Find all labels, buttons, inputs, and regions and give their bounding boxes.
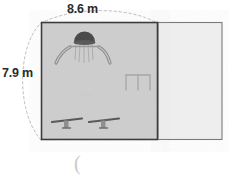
playground-plan-figure <box>0 0 234 183</box>
adjacent-area-rectangle <box>158 23 222 140</box>
stray-parenthesis-text: ( <box>74 152 81 175</box>
width-dimension-label: 8.6 m <box>67 2 98 16</box>
height-dimension-label: 7.9 m <box>2 66 33 80</box>
